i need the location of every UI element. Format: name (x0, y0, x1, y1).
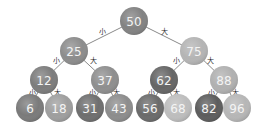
edge-label: 小 (173, 56, 180, 65)
edge-label: 大 (161, 27, 168, 36)
edge-label: 大 (207, 56, 214, 65)
tree-node-96: 96 (223, 94, 251, 122)
tree-node-6: 6 (16, 94, 44, 122)
node-value: 96 (229, 102, 244, 116)
node-value: 82 (201, 102, 216, 116)
node-value: 25 (66, 45, 81, 59)
tree-node-25: 25 (60, 37, 88, 65)
node-value: 6 (26, 102, 34, 116)
node-value: 50 (126, 15, 141, 29)
edge-label: 大 (90, 56, 97, 65)
nodes-layer: 50257512376288618314356688296 (16, 7, 251, 122)
tree-node-88: 88 (210, 66, 238, 94)
tree-node-43: 43 (105, 94, 133, 122)
tree-node-12: 12 (30, 66, 58, 94)
tree-node-50: 50 (120, 7, 148, 35)
tree-node-31: 31 (76, 94, 104, 122)
node-value: 18 (51, 102, 66, 116)
node-value: 62 (156, 74, 171, 88)
tree-node-75: 75 (180, 37, 208, 65)
tree-node-18: 18 (45, 94, 73, 122)
edge-labels-layer: 小大小大小大小大小大小大小大 (29, 27, 239, 97)
tree-node-68: 68 (164, 94, 192, 122)
edge-label: 小 (53, 56, 60, 65)
node-value: 31 (82, 102, 97, 116)
tree-node-82: 82 (195, 94, 223, 122)
tree-node-37: 37 (91, 66, 119, 94)
edge-label: 小 (99, 27, 106, 36)
node-value: 88 (216, 74, 231, 88)
binary-search-tree-diagram: 小大小大小大小大小大小大小大 5025751237628861831435668… (0, 0, 261, 130)
tree-node-62: 62 (150, 66, 178, 94)
node-value: 56 (142, 102, 157, 116)
tree-node-56: 56 (136, 94, 164, 122)
node-value: 37 (97, 74, 112, 88)
node-value: 12 (36, 74, 51, 88)
node-value: 75 (186, 45, 201, 59)
node-value: 68 (170, 102, 185, 116)
node-value: 43 (111, 102, 126, 116)
